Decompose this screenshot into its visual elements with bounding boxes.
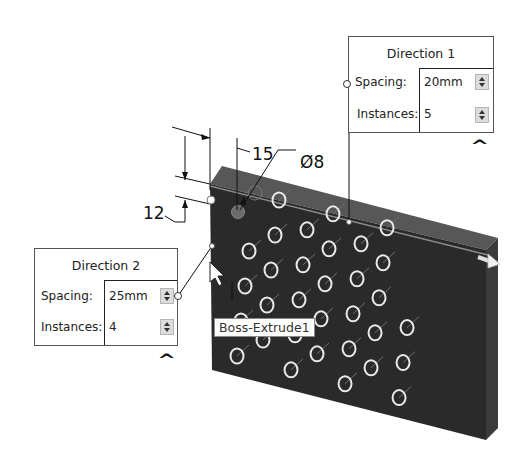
direction2-instances-spinner[interactable] [160, 319, 174, 335]
direction1-callout: Direction 1 Spacing: 20mm Instances: 5 [348, 36, 494, 133]
direction2-title: Direction 2 [35, 258, 177, 273]
direction2-leader-dot [210, 244, 215, 249]
direction2-spacing-label: Spacing: [41, 289, 93, 303]
direction1-instances-spinner[interactable] [475, 107, 489, 123]
direction1-title: Direction 1 [349, 46, 493, 61]
dimension-handle[interactable] [207, 196, 215, 204]
direction2-anchor-dot [174, 292, 182, 300]
arrowhead [182, 200, 188, 208]
direction2-spacing-spinner[interactable] [160, 288, 174, 304]
feature-tooltip: Boss-Extrude1 [214, 318, 315, 337]
arrowhead [201, 134, 210, 140]
direction1-instances-label: Instances: [357, 107, 418, 121]
direction1-anchor-dot [343, 80, 351, 88]
direction1-collapse-icon[interactable]: ^ [470, 136, 489, 155]
direction1-spacing-field[interactable]: 20mm [424, 75, 463, 89]
direction2-callout: Direction 2 Spacing: 25mm Instances: 4 [34, 248, 178, 346]
dimension-hole-diameter[interactable]: Ø8 [300, 152, 324, 172]
boss-extrude-body[interactable] [210, 166, 498, 440]
direction2-instances-field[interactable]: 4 [109, 320, 117, 334]
dimension-12[interactable]: 12 [143, 203, 165, 223]
direction1-instances-field[interactable]: 5 [424, 107, 432, 121]
direction2-instances-label: Instances: [41, 320, 102, 334]
direction1-leader-dot [347, 220, 352, 225]
dimension-15[interactable]: 15 [252, 144, 274, 164]
seed-hole[interactable] [232, 206, 245, 219]
direction1-spacing-label: Spacing: [355, 75, 407, 89]
direction2-collapse-icon[interactable]: ^ [157, 350, 176, 369]
direction1-spacing-spinner[interactable] [475, 74, 489, 90]
direction2-spacing-field[interactable]: 25mm [109, 289, 148, 303]
